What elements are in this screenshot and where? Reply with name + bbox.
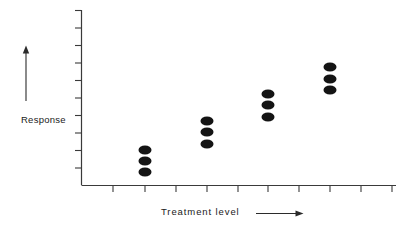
data-point xyxy=(201,139,214,148)
data-cluster-1 xyxy=(139,145,152,176)
data-point xyxy=(139,145,152,154)
data-point xyxy=(139,167,152,176)
data-point xyxy=(262,100,275,109)
data-point xyxy=(139,156,152,165)
plot-canvas xyxy=(0,0,410,228)
data-point xyxy=(262,89,275,98)
data-point xyxy=(324,62,337,71)
data-point xyxy=(324,74,337,83)
data-point xyxy=(201,127,214,136)
data-point xyxy=(324,85,337,94)
data-point xyxy=(201,116,214,125)
scatter-plot-figure: Response Treatment level xyxy=(0,0,410,228)
data-cluster-2 xyxy=(201,116,214,148)
data-point xyxy=(262,112,275,121)
data-cluster-3 xyxy=(262,89,275,121)
plot-background xyxy=(0,0,410,228)
data-cluster-4 xyxy=(324,62,337,94)
